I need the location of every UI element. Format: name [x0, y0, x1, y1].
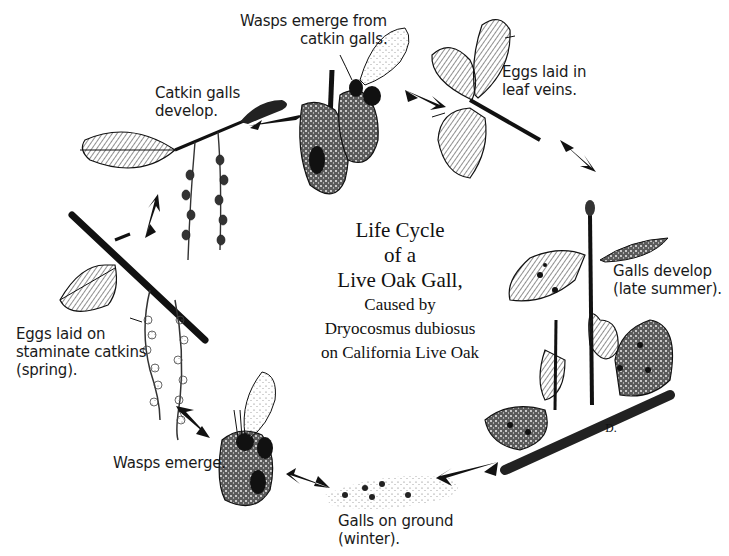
label-line: Galls develop: [613, 262, 722, 280]
subtitle-line: Dryocosmus dubiosus: [300, 317, 500, 341]
leaf-icon: [438, 108, 486, 178]
galled-leaf-icon: [615, 320, 673, 396]
subtitle-line: Caused by: [300, 293, 500, 317]
ground-galls: [325, 476, 458, 509]
label-line: Eggs laid on: [16, 325, 146, 343]
diagram-title: Life Cycle of a Live Oak Gall, Caused by…: [300, 218, 500, 365]
label-line: (spring).: [16, 361, 146, 379]
exit-hole-icon: [250, 470, 266, 494]
catkin-gall-wasp: [300, 28, 409, 194]
label-line: Galls on ground: [338, 512, 453, 530]
label-line: Wasps emerge from: [240, 12, 387, 30]
exit-hole-icon: [309, 146, 325, 174]
leaf-icon: [432, 48, 476, 100]
label-eggs-on-catkins: Eggs laid on staminate catkins (spring).: [16, 325, 146, 379]
label-wasps-emerge-from-catkin-galls: Wasps emerge from catkin galls.: [240, 12, 387, 48]
artist-signature: D.: [605, 422, 617, 435]
label-line: catkin galls.: [240, 30, 387, 48]
label-line: Wasps emerge.: [113, 454, 226, 472]
subtitle-line: on California Live Oak: [300, 341, 500, 365]
galled-leaf-icon: [485, 407, 547, 450]
wasp-wing-icon: [244, 372, 275, 438]
label-line: (winter).: [338, 530, 453, 548]
arrow-icon: [560, 140, 596, 172]
galled-leaf-icon: [509, 251, 585, 301]
title-line: Live Oak Gall,: [300, 268, 500, 293]
title-line: Life Cycle: [300, 218, 500, 243]
arrow-icon: [436, 462, 498, 486]
arrow-icon: [145, 194, 160, 238]
catkin-galls-branch: [80, 100, 287, 260]
label-line: develop.: [155, 102, 240, 120]
wasp-body-icon: [363, 86, 381, 106]
label-galls-develop-late-summer: Galls develop (late summer).: [613, 262, 722, 298]
late-summer-branch: [485, 200, 673, 470]
label-line: (late summer).: [613, 280, 722, 298]
label-galls-on-ground: Galls on ground (winter).: [338, 512, 453, 548]
label-line: Eggs laid in: [502, 63, 586, 81]
arrow-icon: [405, 90, 446, 110]
label-line: staminate catkins: [16, 343, 146, 361]
title-line: of a: [300, 243, 500, 268]
arrow-icon: [286, 468, 330, 488]
label-eggs-in-leaf-veins: Eggs laid in leaf veins.: [502, 63, 586, 99]
label-line: Catkin galls: [155, 84, 240, 102]
emerging-wasp-gall: [219, 372, 275, 506]
label-line: leaf veins.: [502, 81, 586, 99]
label-catkin-galls-develop: Catkin galls develop.: [155, 84, 240, 120]
label-wasps-emerge: Wasps emerge.: [113, 454, 226, 472]
